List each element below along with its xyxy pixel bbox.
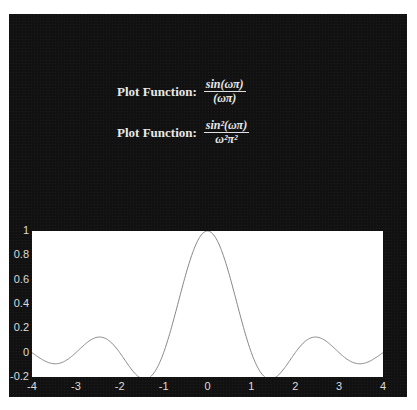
x-tick-label: -4: [22, 380, 42, 392]
formula-label: Plot Function:: [117, 125, 197, 141]
formula-numerator: sin²(ωπ): [204, 119, 249, 132]
x-tick-label: 1: [241, 380, 261, 392]
x-tick-label: 3: [329, 380, 349, 392]
x-tick-label: 2: [285, 380, 305, 392]
formula-label: Plot Function:: [117, 84, 197, 100]
y-tick-label: 0.4: [14, 297, 29, 309]
formula-denominator: ω²π²: [213, 133, 239, 146]
sinc-curve: [32, 231, 383, 377]
formula-row-sinc: Plot Function: sin(ωπ) (ωπ): [117, 78, 246, 105]
formula-fraction: sin²(ωπ) ω²π²: [204, 119, 249, 146]
y-tick-label: 0.6: [14, 273, 29, 285]
x-tick-label: 4: [373, 380, 393, 392]
y-tick-label: 0.2: [14, 321, 29, 333]
formula-row-sinc-squared: Plot Function: sin²(ωπ) ω²π²: [117, 119, 249, 146]
formula-fraction: sin(ωπ) (ωπ): [204, 78, 246, 105]
x-tick-label: -2: [110, 380, 130, 392]
formula-denominator: (ωπ): [211, 92, 238, 105]
plot-area: [32, 231, 383, 377]
x-tick-label: -3: [66, 380, 86, 392]
x-tick-label: -1: [154, 380, 174, 392]
y-tick-label: 0.8: [14, 248, 29, 260]
formula-numerator: sin(ωπ): [204, 78, 246, 91]
y-tick-label: 0: [23, 346, 29, 358]
x-tick-label: 0: [198, 380, 218, 392]
y-tick-label: 1: [23, 224, 29, 236]
series-line: [32, 231, 383, 377]
